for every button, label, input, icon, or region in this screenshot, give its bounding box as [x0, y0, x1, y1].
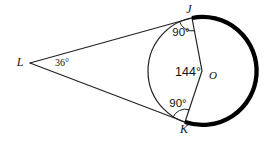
angle-label-90-top: 90° — [172, 26, 189, 38]
angle-label-36: 36° — [55, 57, 69, 68]
label-point-O: O — [209, 69, 217, 81]
thin-strokes-group — [30, 17, 256, 125]
geometry-figure: L J K O 36° 90° 90° 144° — [0, 0, 268, 145]
diagram-svg: L J K O 36° 90° 90° 144° — [0, 0, 268, 145]
label-point-J: J — [186, 2, 192, 16]
label-point-K: K — [179, 122, 189, 136]
tangent-segment-LK — [30, 63, 185, 122]
angle-label-144: 144° — [175, 65, 201, 79]
label-point-L: L — [16, 55, 24, 69]
angle-label-90-bottom: 90° — [169, 97, 186, 109]
